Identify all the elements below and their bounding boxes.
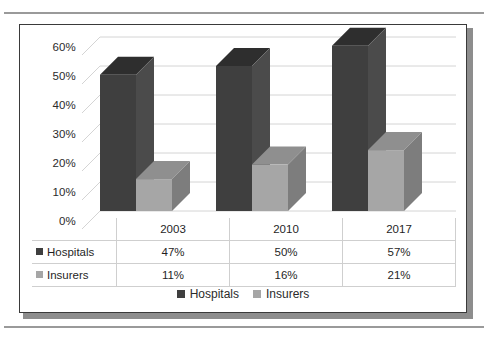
- legend-swatch-hospitals-icon: [177, 290, 185, 298]
- table-series-hospitals: Hospitals: [32, 241, 117, 264]
- chart-frame: 60% 50% 40% 30% 20% 10% 0%: [19, 24, 467, 313]
- legend-label-hospitals: Hospitals: [190, 287, 239, 301]
- page-rule-top: [4, 12, 484, 14]
- table-year-2003: 2003: [117, 218, 230, 241]
- bar-insurers-2017: [368, 132, 422, 211]
- legend-item-hospitals[interactable]: Hospitals: [177, 287, 239, 301]
- table-row: Insurers 11% 16% 21%: [32, 264, 456, 287]
- bar-series-group: [20, 25, 468, 235]
- legend-label-insurers: Insurers: [266, 287, 309, 301]
- table-cell-insurers-2017: 21%: [343, 264, 456, 287]
- chart-data-table: 2003 2010 2017 Hospitals 47% 50% 57% Ins…: [32, 218, 456, 287]
- table-cell-hospitals-2003: 47%: [117, 241, 230, 264]
- table-series-insurers: Insurers: [32, 264, 117, 287]
- series-swatch-hospitals-icon: [36, 248, 43, 255]
- table-year-2017: 2017: [343, 218, 456, 241]
- page-rule-bottom: [4, 326, 484, 328]
- table-cell-insurers-2003: 11%: [117, 264, 230, 287]
- table-corner-cell: [32, 218, 117, 241]
- table-row-years: 2003 2010 2017: [32, 218, 456, 241]
- table-series-insurers-label: Insurers: [47, 269, 89, 281]
- table-year-2010: 2010: [230, 218, 343, 241]
- table-cell-insurers-2010: 16%: [230, 264, 343, 287]
- legend-swatch-insurers-icon: [253, 290, 261, 298]
- table-cell-hospitals-2017: 57%: [343, 241, 456, 264]
- legend-item-insurers[interactable]: Insurers: [253, 287, 309, 301]
- chart-legend: Hospitals Insurers: [20, 287, 466, 301]
- table-series-hospitals-label: Hospitals: [47, 246, 94, 258]
- series-swatch-insurers-icon: [36, 271, 43, 278]
- plot-area: 60% 50% 40% 30% 20% 10% 0%: [20, 25, 468, 218]
- table-cell-hospitals-2010: 50%: [230, 241, 343, 264]
- table-row: Hospitals 47% 50% 57%: [32, 241, 456, 264]
